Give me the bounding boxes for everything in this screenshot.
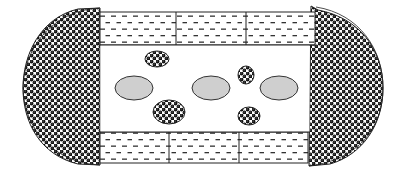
gray-ellipse-1 [115,76,153,100]
gray-ellipses-group [115,76,298,100]
gray-ellipse-3 [260,76,298,100]
right-cap-region [309,6,383,166]
dotted-ellipse-2 [153,100,185,124]
dotted-ellipse-1 [145,51,169,67]
top-band [100,12,315,45]
dotted-ellipse-3 [238,66,254,84]
left-cap-region [23,8,100,165]
bottom-band [100,132,308,163]
diagram-canvas [0,0,405,187]
gray-ellipse-2 [192,76,230,100]
capsule-diagram [0,0,405,187]
dotted-ellipse-4 [238,107,260,125]
